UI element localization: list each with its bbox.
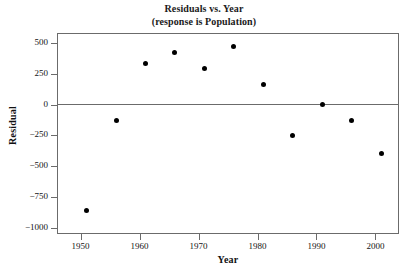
x-axis-tick-label: 1980	[238, 241, 278, 251]
x-axis-tick-label: 1950	[61, 241, 101, 251]
data-point	[261, 82, 266, 87]
x-axis-tick-label: 1970	[179, 241, 219, 251]
y-axis-tick-label: 250	[4, 68, 48, 78]
x-axis-tick	[316, 234, 317, 240]
chart-subtitle: (response is Population)	[0, 15, 408, 28]
x-axis-tick	[199, 234, 200, 240]
y-axis-label: Residual	[7, 91, 18, 161]
y-axis-tick	[51, 228, 57, 229]
data-point	[143, 61, 148, 66]
x-axis-tick	[375, 234, 376, 240]
y-axis-tick	[51, 166, 57, 167]
x-axis-tick	[258, 234, 259, 240]
y-axis-tick	[51, 105, 57, 106]
x-axis-label: Year	[57, 254, 399, 265]
x-axis-tick-label: 1960	[120, 241, 160, 251]
y-axis-tick-label: −1000	[4, 222, 48, 232]
y-axis-tick-label: −500	[4, 160, 48, 170]
x-axis-tick-label: 1990	[296, 241, 336, 251]
chart-title-block: Residuals vs. Year (response is Populati…	[0, 2, 408, 28]
x-axis-tick-label: 2000	[355, 241, 395, 251]
zero-reference-line	[57, 104, 399, 105]
residuals-scatter-chart: Residuals vs. Year (response is Populati…	[0, 0, 408, 271]
y-axis-tick	[51, 197, 57, 198]
chart-title: Residuals vs. Year	[0, 2, 408, 15]
data-point	[114, 118, 119, 123]
plot-area	[57, 33, 399, 234]
x-axis-tick	[81, 234, 82, 240]
y-axis-tick	[51, 74, 57, 75]
x-axis-tick	[140, 234, 141, 240]
y-axis-tick	[51, 135, 57, 136]
y-axis-tick	[51, 43, 57, 44]
y-axis-tick-label: 500	[4, 37, 48, 47]
y-axis-tick-label: −750	[4, 191, 48, 201]
